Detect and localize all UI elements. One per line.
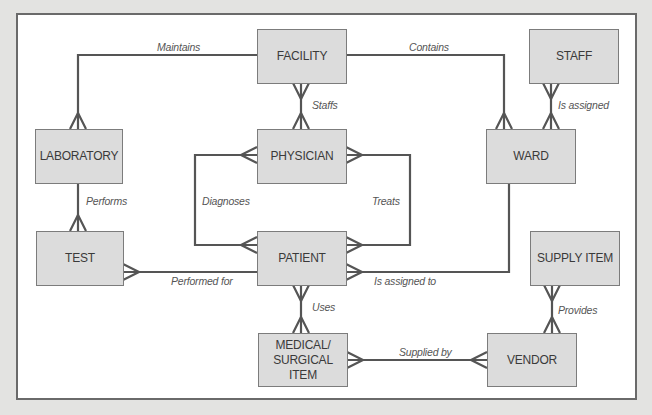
line-staffs (293, 83, 309, 129)
entity-physician[interactable]: PHYSICIAN (257, 129, 347, 184)
label-is-assigned-to: Is assigned to (374, 275, 436, 287)
entity-test[interactable]: TEST (36, 231, 124, 286)
label-uses: Uses (312, 301, 335, 313)
entity-vendor[interactable]: VENDOR (487, 333, 577, 387)
line-contains (346, 55, 512, 129)
label-provides: Provides (558, 304, 597, 316)
label-maintains: Maintains (157, 41, 200, 53)
label-treats: Treats (372, 195, 400, 207)
line-uses (293, 285, 309, 333)
entity-ward[interactable]: WARD (486, 129, 576, 184)
label-diagnoses: Diagnoses (202, 195, 250, 207)
line-is-assigned (543, 83, 559, 129)
entity-medical-surgical-item[interactable]: MEDICAL/ SURGICAL ITEM (258, 333, 348, 387)
label-performed-for: Performed for (171, 275, 233, 287)
line-maintains (70, 55, 257, 129)
label-staffs: Staffs (312, 99, 338, 111)
label-supplied-by: Supplied by (399, 346, 452, 358)
entity-supply-item[interactable]: SUPPLY ITEM (530, 231, 620, 286)
entity-staff[interactable]: STAFF (529, 29, 619, 84)
line-is-assigned-to (346, 183, 509, 280)
entity-facility[interactable]: FACILITY (257, 29, 347, 84)
line-performs (70, 183, 86, 231)
label-performs: Performs (86, 195, 127, 207)
label-contains: Contains (409, 41, 449, 53)
entity-laboratory[interactable]: LABORATORY (35, 129, 123, 184)
label-is-assigned: Is assigned (558, 99, 609, 111)
entity-patient[interactable]: PATIENT (257, 231, 347, 286)
